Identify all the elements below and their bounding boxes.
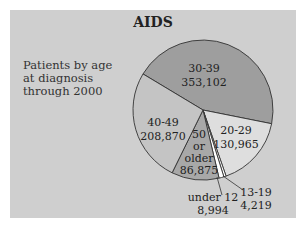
label-40-49-cat: 40-49 xyxy=(147,116,179,129)
label-under-12-val: 8,994 xyxy=(197,204,229,217)
label-20-29-cat: 20-29 xyxy=(220,124,252,137)
label-13-19-val: 4,219 xyxy=(240,199,272,212)
label-50-older-val: 86,875 xyxy=(180,164,219,177)
label-40-49-val: 208,870 xyxy=(140,130,186,143)
label-30-39-val: 353,102 xyxy=(181,76,227,89)
pie-chart: 30-39 353,102 20-29 130,965 13-19 4,219 … xyxy=(0,0,305,230)
label-13-19-cat: 13-19 xyxy=(240,186,272,199)
label-30-39-cat: 30-39 xyxy=(188,62,220,75)
label-under-12-cat: under 12 xyxy=(188,191,238,204)
label-20-29-val: 130,965 xyxy=(213,138,259,151)
